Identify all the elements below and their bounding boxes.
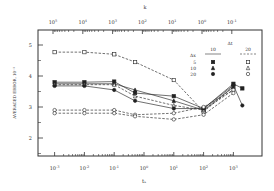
x2-tick-label: 100 bbox=[198, 19, 207, 25]
chart: 10-310-210-11001011021031051041031021011… bbox=[0, 0, 274, 191]
filled-circle-marker-icon bbox=[83, 84, 86, 87]
open-square-marker-icon bbox=[172, 78, 175, 81]
filled-circle-marker-icon bbox=[241, 104, 244, 107]
y-tick-label: 2 bbox=[29, 135, 32, 141]
legend-filled-circle-icon bbox=[211, 72, 214, 75]
x2-tick-label: 10-1 bbox=[227, 19, 237, 25]
x-tick-label: 10-3 bbox=[50, 165, 60, 171]
x2-tick-label: 102 bbox=[138, 19, 147, 25]
open-square-marker-icon bbox=[133, 60, 136, 63]
chart-svg: 10-310-210-11001011021031051041031021011… bbox=[0, 0, 274, 191]
plot-frame bbox=[38, 30, 262, 156]
legend-row-label: 10 bbox=[190, 66, 196, 71]
filled-circle-marker-icon bbox=[53, 84, 56, 87]
legend-col-20: 20 bbox=[245, 47, 251, 52]
y-tick-label: 5 bbox=[29, 42, 32, 48]
x2-tick-label: 101 bbox=[168, 19, 177, 25]
open-circle-marker-icon bbox=[113, 112, 116, 115]
x2-tick-label: 104 bbox=[78, 19, 87, 25]
open-square-marker-icon bbox=[53, 50, 56, 53]
x2-tick-label: 105 bbox=[49, 19, 58, 25]
open-circle-marker-icon bbox=[232, 91, 235, 94]
open-square-marker-icon bbox=[113, 53, 116, 56]
legend-row-label: 5 bbox=[193, 60, 196, 65]
legend-header-right: Δt bbox=[227, 41, 232, 46]
open-circle-marker-icon bbox=[133, 115, 136, 118]
legend-header-left: Δx bbox=[190, 53, 196, 58]
open-circle-marker-icon bbox=[53, 112, 56, 115]
x-tick-label: 10-2 bbox=[80, 165, 90, 171]
legend-col-10: 10 bbox=[210, 47, 216, 52]
open-circle-marker-icon bbox=[83, 112, 86, 115]
x-axis-label: tₛ bbox=[142, 178, 146, 184]
filled-circle-marker-icon bbox=[113, 88, 116, 91]
open-circle-marker-icon bbox=[172, 118, 175, 121]
legend-open-square-icon bbox=[246, 60, 249, 63]
x2-tick-label: 103 bbox=[108, 19, 117, 25]
legend-row-label: 20 bbox=[190, 72, 196, 77]
y-tick-label: 3 bbox=[29, 104, 32, 110]
filled-circle-marker-icon bbox=[172, 107, 175, 110]
open-circle-marker-icon bbox=[172, 112, 175, 115]
x-tick-label: 102 bbox=[199, 165, 208, 171]
legend-open-circle-icon bbox=[246, 72, 249, 75]
y-axis-label: AVERAGED ERROR, 10⁻³ bbox=[12, 67, 17, 120]
filled-square-marker-icon bbox=[172, 94, 175, 97]
legend-open-triangle-icon bbox=[246, 66, 249, 70]
filled-square-marker-icon bbox=[241, 87, 244, 90]
filled-circle-marker-icon bbox=[133, 99, 136, 102]
series-line-4 bbox=[55, 85, 243, 108]
x-tick-label: 10-1 bbox=[109, 165, 119, 171]
filled-circle-marker-icon bbox=[232, 84, 235, 87]
open-square-marker-icon bbox=[83, 50, 86, 53]
y-tick-label: 4 bbox=[29, 73, 32, 79]
legend-filled-square-icon bbox=[211, 60, 214, 63]
x-tick-label: 100 bbox=[140, 165, 149, 171]
open-circle-marker-icon bbox=[202, 105, 205, 108]
x-tick-label: 103 bbox=[229, 165, 238, 171]
x2-axis-label: k bbox=[143, 4, 147, 10]
x-tick-label: 101 bbox=[169, 165, 178, 171]
legend-filled-triangle-icon bbox=[211, 66, 214, 70]
open-circle-marker-icon bbox=[202, 113, 205, 116]
